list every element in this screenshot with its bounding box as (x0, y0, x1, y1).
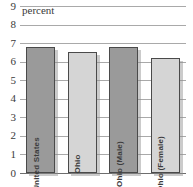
y-axis-tick-4: 4 (0, 93, 16, 104)
y-axis-tick-6: 6 (0, 56, 16, 67)
y-axis-tick-8: 8 (0, 19, 16, 30)
bar-group: United States (26, 47, 55, 173)
y-axis-tick-2: 2 (0, 130, 16, 141)
plot-area: United StatesOhioOhio (Male)Ohio (Female… (20, 0, 186, 187)
bar-ohio-female: Ohio (Female) (151, 58, 180, 173)
bar-ohio-male: Ohio (Male) (109, 47, 138, 173)
bar-united-states: United States (26, 47, 55, 173)
y-axis-tick-5: 5 (0, 75, 16, 86)
y-axis-tick-1: 1 (0, 149, 16, 160)
bar-group: Ohio (68, 52, 97, 173)
bar-label: Ohio (Female) (156, 136, 165, 187)
bar-ohio: Ohio (68, 52, 97, 173)
y-axis-tick-7: 7 (0, 38, 16, 49)
bar-chart: percent 9876543210 United StatesOhioOhio… (0, 0, 193, 187)
y-axis-tick-9: 9 (0, 1, 16, 12)
bar-group: Ohio (Female) (151, 58, 180, 173)
bar-group: Ohio (Male) (109, 47, 138, 173)
y-axis-tick-3: 3 (0, 112, 16, 123)
bar-label: United States (32, 137, 41, 187)
bar-label: Ohio (73, 154, 82, 173)
bar-label: Ohio (Male) (115, 141, 124, 187)
y-axis-tick-0: 0 (0, 168, 16, 179)
